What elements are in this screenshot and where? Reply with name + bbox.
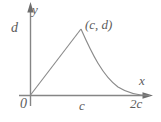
y-axis-label: y — [32, 3, 38, 16]
rising-line-segment — [31, 29, 82, 95]
d-value-label: d — [11, 21, 18, 35]
origin-label: 0 — [20, 97, 27, 111]
graph-figure: y d x 0 c 2c (c, d) — [0, 0, 161, 122]
x-axis-label: x — [139, 74, 145, 87]
x-tick-label-2c: 2c — [130, 97, 142, 110]
x-tick-label-c: c — [79, 99, 85, 112]
peak-point-label: (c, d) — [85, 18, 112, 31]
